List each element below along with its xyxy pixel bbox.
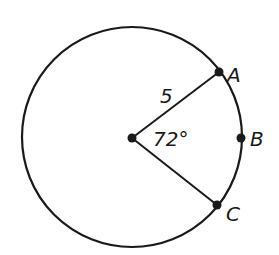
point-c <box>213 201 222 210</box>
center-point <box>128 134 137 143</box>
label-a: A <box>225 63 241 87</box>
label-c: C <box>226 202 240 226</box>
label-b: B <box>250 127 264 151</box>
radius-label: 5 <box>160 84 173 108</box>
point-a <box>215 68 224 77</box>
circle-sector-diagram: A B C 5 72° <box>0 0 279 255</box>
angle-label: 72° <box>153 127 188 151</box>
point-b <box>237 134 246 143</box>
